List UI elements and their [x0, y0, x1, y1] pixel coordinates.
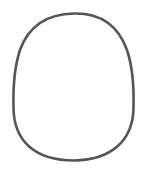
drawing-canvas — [0, 0, 159, 175]
egg-outline-drawing — [0, 0, 159, 175]
egg-outline-shape — [13, 13, 133, 160]
